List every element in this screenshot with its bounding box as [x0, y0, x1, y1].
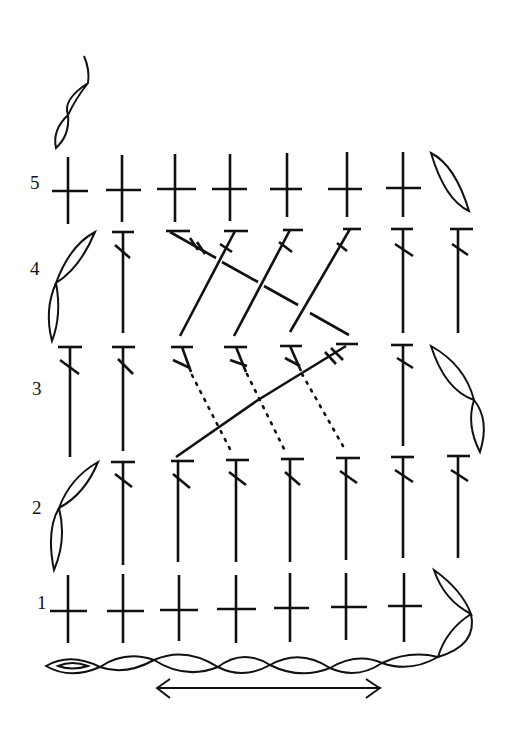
row-1-single-crochet [50, 573, 422, 643]
row-5-single-crochet [52, 152, 469, 224]
row-2-double-crochet [111, 456, 470, 565]
turning-chain-icon [431, 153, 469, 211]
stitch-diagram-svg [0, 0, 514, 747]
top-left-turning-chain [55, 56, 88, 148]
row-3-dotted-posts [192, 374, 343, 453]
row-3-turning-chain [431, 346, 484, 452]
row-1-turning-chain [434, 570, 472, 657]
row-2-turning-chain [51, 462, 98, 570]
foundation-chain [46, 654, 438, 673]
row-4-turning-chain [49, 232, 95, 341]
repeat-arrow-icon [157, 679, 380, 698]
row-3-double-crochet [58, 344, 413, 457]
row-4-double-crochet [112, 229, 473, 336]
